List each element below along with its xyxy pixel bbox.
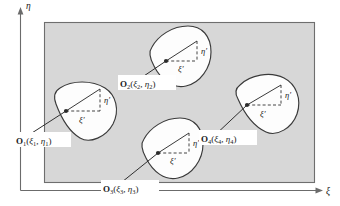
body-4-origin-dot xyxy=(245,103,249,107)
body-3-local-xi-label: ξ′ xyxy=(170,156,176,166)
xi-axis-arrow xyxy=(316,188,324,194)
body-4-local-xi-label: ξ′ xyxy=(260,109,266,119)
body-1-origin-dot xyxy=(64,109,68,113)
body-4-local-eta-label: η′ xyxy=(285,90,291,100)
body-3-origin-dot xyxy=(156,151,160,155)
diagram-canvas: η ξ ξ′ η′ O1(ξ1, η1) xyxy=(0,0,340,206)
xi-axis-label: ξ xyxy=(326,186,331,197)
eta-axis-arrow xyxy=(18,7,24,15)
body-2-origin-dot xyxy=(164,59,168,63)
body-2-local-xi-label: ξ′ xyxy=(178,64,184,74)
body-3-local-eta-label: η′ xyxy=(193,138,199,148)
body-2-local-eta-label: η′ xyxy=(201,46,207,56)
eta-axis-label: η xyxy=(26,1,31,11)
body-1-local-eta-label: η′ xyxy=(104,95,110,105)
body-1-local-xi-label: ξ′ xyxy=(79,115,85,125)
